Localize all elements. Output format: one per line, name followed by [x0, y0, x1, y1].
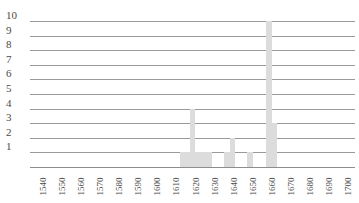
y-axis-tick-label: 4 [6, 98, 26, 109]
bar [272, 123, 278, 167]
x-axis-tick-label: 1630 [206, 170, 218, 191]
plot-area [30, 22, 355, 168]
bar [247, 152, 253, 167]
x-axis-labels: 1540155015601570158015901600161016201630… [30, 170, 355, 203]
x-axis-tick-label: 1550 [53, 170, 65, 191]
bar [201, 152, 207, 167]
x-axis-tick-label: 1680 [301, 170, 313, 191]
x-axis-tick-label: 1610 [167, 170, 179, 191]
bar [190, 109, 196, 167]
x-axis-tick-label: 1620 [187, 170, 199, 191]
x-axis-tick-label: 1700 [339, 170, 351, 191]
bar [224, 152, 230, 167]
x-axis-tick-label: 1580 [110, 170, 122, 191]
y-axis-tick-label: 9 [6, 25, 26, 36]
bar [266, 21, 272, 167]
x-axis-tick-label: 1560 [72, 170, 84, 191]
bar-series [30, 22, 355, 167]
bar [207, 152, 213, 167]
bar-chart: 12345678910 1540155015601570158015901600… [0, 0, 359, 203]
y-axis-tick-label: 7 [6, 54, 26, 65]
x-axis-tick-label: 1540 [34, 170, 46, 191]
bar [184, 152, 190, 167]
x-axis-tick-label: 1570 [91, 170, 103, 191]
y-axis-tick-label: 10 [6, 10, 26, 21]
x-axis-tick-label: 1640 [225, 170, 237, 191]
x-axis-tick-label: 1690 [320, 170, 332, 191]
x-axis-line [30, 167, 355, 168]
y-axis-tick-label: 2 [6, 127, 26, 138]
x-axis-tick-label: 1660 [263, 170, 275, 191]
x-axis-tick-label: 1670 [282, 170, 294, 191]
y-axis-tick-label: 8 [6, 39, 26, 50]
x-axis-tick-label: 1590 [129, 170, 141, 191]
y-axis-tick-label: 6 [6, 68, 26, 79]
bar [195, 152, 201, 167]
y-axis-tick-label: 5 [6, 83, 26, 94]
y-axis-tick-label: 3 [6, 112, 26, 123]
bar [230, 138, 236, 167]
y-axis-tick-label: 1 [6, 141, 26, 152]
x-axis-tick-label: 1600 [148, 170, 160, 191]
x-axis-tick-label: 1650 [244, 170, 256, 191]
